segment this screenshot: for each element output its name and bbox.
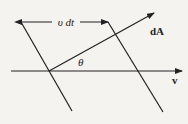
flux-diagram: υ dt v dA θ: [0, 0, 188, 124]
area-vector-label: dA: [150, 25, 164, 37]
displacement-label: υ dt: [58, 16, 75, 28]
angle-label: θ: [78, 56, 84, 68]
left-surface-line: [21, 22, 72, 111]
velocity-label: v: [172, 74, 178, 86]
